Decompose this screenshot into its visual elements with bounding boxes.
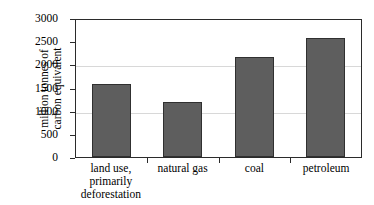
y-tick-mark-0 [70,158,75,159]
bar-slot-petroleum [290,20,361,157]
x-label-land-use-line-2: primarily [75,175,147,188]
y-tick-label-0: 0 [14,152,58,164]
x-label-petroleum-line-1: petroleum [290,162,362,175]
bar-slot-natural-gas [147,20,218,157]
bar-natural-gas[interactable] [163,102,202,157]
bar-slot-coal [219,20,290,157]
y-tick-label-500: 500 [14,129,58,141]
x-label-land-use-line-3: deforestation [75,188,147,201]
y-tick-label-3000: 3000 [14,13,58,25]
x-label-coal: coal [219,162,291,175]
y-tick-label-1500: 1500 [14,83,58,95]
bar-chart: million tonnes of carbon equivalent 3000… [0,0,374,205]
y-tick-label-2000: 2000 [14,60,58,72]
bar-coal[interactable] [235,57,274,157]
x-label-petroleum: petroleum [290,162,362,175]
y-tick-label-1000: 1000 [14,106,58,118]
x-label-natural-gas: natural gas [147,162,219,175]
x-label-land-use: land use, primarily deforestation [75,162,147,201]
x-label-natural-gas-line-1: natural gas [147,162,219,175]
plot-area [75,19,362,158]
x-label-land-use-line-1: land use, [75,162,147,175]
bar-slot-land-use [76,20,147,157]
bar-land-use[interactable] [92,84,131,157]
x-label-coal-line-1: coal [219,162,291,175]
bar-petroleum[interactable] [306,38,345,157]
y-tick-label-2500: 2500 [14,36,58,48]
